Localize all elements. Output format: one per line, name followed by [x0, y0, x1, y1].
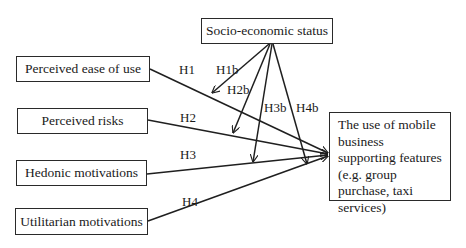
hypothesis-label-h3b: H3b [264, 101, 286, 114]
hypothesis-label-h2b: H2b [227, 83, 249, 96]
arrow-h2 [148, 120, 328, 154]
mobile-business-use-box: The use of mobile business supporting fe… [329, 112, 451, 201]
perceived-risks-box: Perceived risks [17, 108, 148, 134]
hypothesis-label-h4b: H4b [296, 101, 318, 114]
socio-economic-status-label: Socio-economic status [206, 23, 328, 39]
hedonic-motivations-box: Hedonic motivations [16, 160, 147, 186]
hedonic-motivations-label: Hedonic motivations [25, 165, 138, 181]
hypothesis-label-h1b: H1b [216, 63, 238, 76]
hypothesis-label-h3: H3 [180, 148, 196, 161]
arrow-h4 [148, 156, 328, 221]
mobile-business-use-label: The use of mobile business supporting fe… [338, 117, 444, 216]
perceived-ease-of-use-label: Perceived ease of use [25, 61, 141, 77]
hypothesis-label-h4: H4 [182, 195, 198, 208]
arrow-h3 [147, 155, 328, 174]
socio-economic-status-box: Socio-economic status [201, 18, 333, 44]
utilitarian-motivations-label: Utilitarian motivations [20, 214, 143, 230]
hypothesis-label-h2: H2 [180, 111, 196, 124]
perceived-risks-label: Perceived risks [41, 113, 123, 129]
hypothesis-label-h1: H1 [179, 63, 195, 76]
perceived-ease-of-use-box: Perceived ease of use [16, 56, 150, 82]
utilitarian-motivations-box: Utilitarian motivations [15, 208, 148, 235]
